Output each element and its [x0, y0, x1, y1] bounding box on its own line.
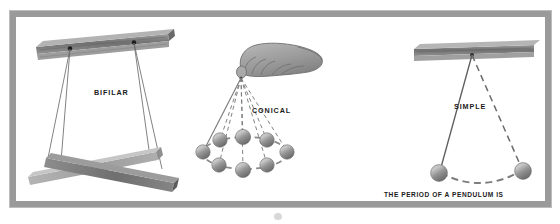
pendulum-diagram-screenshot: BIFILAR CONICAL SIMPLE TYPES OF PENDULUM…	[0, 0, 560, 224]
conical-threads	[203, 78, 287, 169]
page-smudge-mark	[274, 213, 282, 220]
bifilar-ceiling-beam	[36, 29, 175, 60]
simple-pendulum-figure	[386, 23, 545, 201]
simple-swing-arc	[441, 171, 521, 183]
simple-thread-left	[440, 55, 472, 171]
bifilar-pendulum-figure	[16, 17, 196, 201]
period-definition-caption: THE PERIOD OF A PENDULUM IS THE TIME OF …	[384, 190, 545, 201]
conical-hand	[237, 43, 323, 78]
illustration-frame: BIFILAR CONICAL SIMPLE TYPES OF PENDULUM…	[9, 10, 552, 208]
panel-label-conical: CONICAL	[252, 106, 291, 115]
simple-bob-left	[431, 165, 448, 182]
panel-label-simple: SIMPLE	[454, 102, 486, 111]
panel-label-bifilar: BIFILAR	[94, 88, 129, 97]
bifilar-crossed-bars	[28, 147, 179, 192]
simple-ceiling-beam	[414, 40, 540, 61]
simple-thread-right	[472, 55, 522, 169]
illustration-canvas: BIFILAR CONICAL SIMPLE TYPES OF PENDULUM…	[16, 17, 545, 201]
simple-bob-right	[515, 163, 532, 180]
